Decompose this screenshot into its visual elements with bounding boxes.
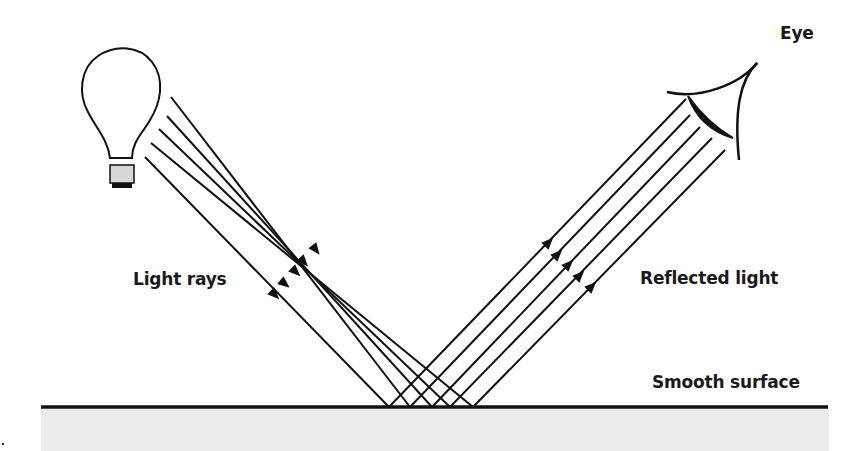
eye-icon xyxy=(667,63,757,160)
reflected-ray-1 xyxy=(389,99,686,407)
surface-material xyxy=(41,409,829,451)
light-rays-label: Light rays xyxy=(133,269,227,289)
eye-label: Eye xyxy=(780,23,814,43)
smooth-surface-label: Smooth surface xyxy=(652,372,800,392)
reflected-light-label: Reflected light xyxy=(640,268,778,288)
reflected-ray-2 xyxy=(410,115,690,407)
incoming-light-rays xyxy=(145,97,473,407)
light-bulb-icon xyxy=(82,48,160,188)
stray-mark xyxy=(2,443,4,445)
reflected-light-rays xyxy=(389,99,725,407)
arrowhead-icon xyxy=(308,242,319,255)
arrowhead-icon xyxy=(288,264,300,276)
arrowhead-icon xyxy=(277,276,289,287)
